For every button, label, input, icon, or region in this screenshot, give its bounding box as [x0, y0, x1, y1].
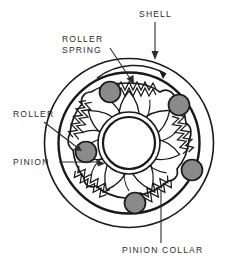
- label-pinion-collar: PINION COLLAR: [122, 245, 203, 255]
- roller-top: [100, 82, 121, 103]
- label-shell: SHELL: [139, 9, 172, 19]
- label-pinion: PINION: [13, 157, 50, 167]
- roller-clutch-diagram: SHELL ROLLER SPRING ROLLER PINION PINION…: [0, 0, 229, 262]
- label-roller-spring-line2: SPRING: [62, 45, 102, 55]
- roller-left: [76, 142, 97, 163]
- leader-shell: [152, 22, 159, 60]
- roller-bottom: [125, 193, 146, 214]
- label-roller: ROLLER: [13, 109, 54, 119]
- pinion-hub: [98, 112, 160, 174]
- diagram-page: SHELL ROLLER SPRING ROLLER PINION PINION…: [0, 0, 229, 262]
- roller-upper-right: [169, 95, 190, 116]
- label-roller-spring-line1: ROLLER: [62, 34, 103, 44]
- roller-lower-right: [182, 160, 203, 181]
